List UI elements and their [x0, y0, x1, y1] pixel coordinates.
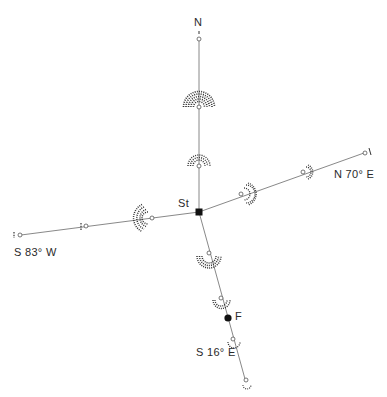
- point-f-marker-icon: [224, 314, 231, 321]
- direction-label-east: N 70° E: [334, 168, 374, 180]
- station-circle-icon: [197, 105, 201, 109]
- station-label: St: [178, 197, 189, 209]
- direction-label-south: S 16° E: [196, 346, 236, 358]
- west-endpoint: [14, 232, 22, 238]
- station-circle-icon: [231, 337, 235, 341]
- direction-label-west: S 83° W: [14, 246, 57, 258]
- arc-cluster-west-large-icon: [134, 205, 148, 232]
- endpoint-circle-icon: [18, 233, 22, 237]
- station-circle-icon: [301, 170, 305, 174]
- endpoint-circle-icon: [363, 151, 367, 155]
- south-endpoint: [243, 378, 251, 389]
- arc-cluster-south-1-icon: [197, 256, 221, 268]
- west-mid-station: [81, 223, 88, 230]
- point-f-label: F: [235, 310, 242, 322]
- direction-label-north: N: [194, 16, 202, 28]
- line-n70e: [199, 153, 364, 212]
- station-circle-icon: [219, 296, 223, 300]
- survey-lines: [21, 41, 364, 379]
- station-circle-icon: [84, 224, 88, 228]
- line-s83w: [21, 212, 199, 235]
- arc-cluster-south-2-icon: [213, 300, 230, 309]
- tick-icon: [369, 148, 371, 155]
- station-circle-icon: [197, 164, 201, 168]
- east-endpoint: [363, 148, 371, 155]
- station-circle-icon: [150, 216, 154, 220]
- station-st-marker-icon: [196, 209, 203, 216]
- station-circle-icon: [239, 192, 243, 196]
- station-circle-icon: [207, 251, 211, 255]
- tick-icon: [243, 385, 251, 389]
- north-endpoint: [197, 31, 201, 41]
- endpoint-circle-icon: [197, 37, 201, 41]
- survey-radial-diagram: [0, 0, 387, 397]
- endpoint-circle-icon: [244, 378, 248, 382]
- arc-cluster-east-1-icon: [244, 183, 256, 205]
